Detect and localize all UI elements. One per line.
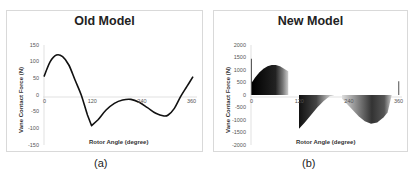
y-tick-label: 0 (15, 92, 39, 98)
x-tick-label: 360 (394, 98, 403, 104)
y-tick-label: -150 (15, 142, 39, 148)
force-area (252, 65, 288, 95)
caption-b: (b) (302, 157, 315, 169)
x-tick-label: 360 (187, 98, 196, 104)
force-area (299, 95, 334, 129)
y-tick-label: -1500 (222, 129, 246, 135)
caption-a: (a) (94, 157, 107, 169)
x-tick-label: 120 (88, 98, 97, 104)
y-tick-label: 1500 (222, 54, 246, 60)
x-tick-label: 0 (43, 98, 46, 104)
x-tick-label: 0 (250, 98, 253, 104)
y-tick-label: 50 (15, 75, 39, 81)
y-tick-label: -100 (15, 125, 39, 131)
y-tick-label: -2000 (222, 142, 246, 148)
y-tick-label: 0 (222, 92, 246, 98)
y-tick-label: 1000 (222, 67, 246, 73)
x-tick-label: 240 (344, 98, 353, 104)
y-tick-label: 500 (222, 79, 246, 85)
x-tick-label: 120 (295, 98, 304, 104)
y-tick-label: 150 (15, 42, 39, 48)
x-tick-label: 240 (137, 98, 146, 104)
y-tick-label: 100 (15, 58, 39, 64)
y-tick-label: -50 (15, 108, 39, 114)
plot-area (7, 11, 204, 153)
chart-panel-new-model: New Model Vane Contact Force (N) Rotor A… (213, 10, 408, 152)
y-tick-label: -500 (222, 104, 246, 110)
y-tick-label: -1000 (222, 117, 246, 123)
chart-panel-old-model: Old Model Vane Contact Force (N) Rotor A… (6, 10, 203, 152)
y-tick-label: 2000 (222, 42, 246, 48)
